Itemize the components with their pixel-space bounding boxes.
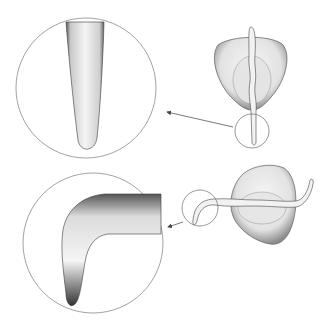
seed-bent	[182, 165, 313, 244]
radicle-vertical	[249, 27, 256, 145]
arrow-top	[167, 112, 233, 127]
seed-vertical	[214, 27, 287, 148]
panel-bent-root	[23, 165, 313, 313]
arrow-bottom	[168, 222, 183, 227]
seed-root-diagram	[0, 0, 325, 329]
panel-vertical-root	[16, 18, 287, 158]
cotyledon-bottom	[238, 192, 286, 224]
